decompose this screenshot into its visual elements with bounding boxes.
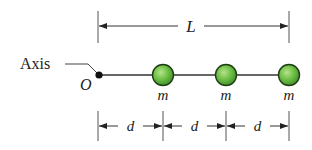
origin-label: O (80, 76, 92, 93)
rotating-rod-diagram: L Axis O m m m d d d (0, 0, 312, 150)
mass-label: m (158, 87, 169, 103)
axis-leader-line (65, 64, 97, 73)
mass-label: m (221, 87, 232, 103)
mass-ball-icon (153, 65, 174, 86)
mass-ball-icon (279, 65, 300, 86)
mass-label: m (284, 87, 295, 103)
mass-1: m (153, 65, 174, 104)
spacing-dimensions: d d d (98, 111, 289, 141)
spacing-label: d (127, 118, 135, 134)
length-label: L (185, 17, 195, 36)
length-dimension: L (98, 11, 289, 43)
mass-3: m (279, 65, 300, 104)
axis-annotation: Axis (20, 55, 97, 73)
axis-label: Axis (20, 55, 50, 72)
mass-ball-icon (216, 65, 237, 86)
spacing-label: d (191, 118, 199, 134)
mass-2: m (216, 65, 237, 104)
spacing-label: d (254, 118, 262, 134)
pivot-point-icon (95, 71, 102, 78)
